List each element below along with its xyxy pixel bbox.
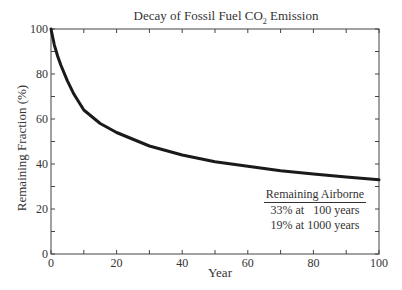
x-axis-label: Year: [190, 265, 250, 281]
x-tick-label: 80: [307, 256, 319, 270]
x-tick-label: 0: [48, 256, 54, 270]
y-axis-label: Remaining Fraction (%): [14, 78, 30, 218]
annotation-box: Remaining Airborne 33% at 100 years 19% …: [255, 187, 375, 233]
y-tick-label: 80: [36, 67, 48, 81]
decay-curve: [51, 29, 379, 180]
x-tick-label: 100: [370, 256, 388, 270]
y-tick-label: 100: [30, 22, 48, 36]
plot-area: 020406080100020406080100: [0, 0, 402, 290]
annotation-line-2: 19% at 1000 years: [271, 218, 360, 232]
y-tick-label: 60: [36, 112, 48, 126]
y-tick-label: 20: [36, 202, 48, 216]
annotation-line-1: 33% at 100 years: [271, 203, 360, 217]
annotation-heading: Remaining Airborne: [264, 187, 366, 203]
y-tick-label: 40: [36, 157, 48, 171]
x-tick-label: 20: [111, 256, 123, 270]
y-tick-label: 0: [42, 247, 48, 261]
x-tick-label: 40: [176, 256, 188, 270]
